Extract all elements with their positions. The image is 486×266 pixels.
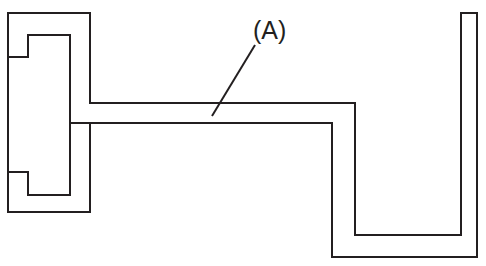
bracket-profile-outline: [8, 13, 477, 257]
drawing-canvas: [0, 0, 486, 266]
callout-a-label: (A): [253, 18, 286, 43]
technical-drawing-figure: (A): [0, 0, 486, 266]
